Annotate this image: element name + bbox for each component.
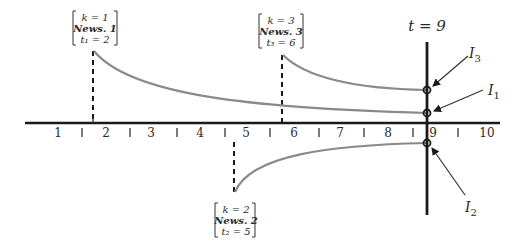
impact-curve-k3 [283,55,427,90]
axis-separators [82,128,458,137]
news-impact-diagram: 1 2 3 4 5 6 7 8 9 10 t = 9 I3 I1 I2 k = … [0,0,521,249]
tick-label-9: 9 [429,126,437,140]
tick-label-1: 1 [54,126,62,140]
arrow-i3 [433,56,468,86]
tick-label-10: 10 [479,126,494,140]
news-k2-name: News. 2 [213,215,258,226]
news-k1-t: t₁ = 2 [80,34,109,45]
impact-label-i2: I2 [464,199,477,218]
news-k3-k: k = 3 [267,15,294,26]
impact-label-i1: I1 [487,82,500,101]
news-k3-name: News. 3 [258,26,303,37]
impact-label-i3: I3 [468,45,481,64]
news-k1-name: News. 1 [72,23,117,34]
tick-label-6: 6 [290,126,298,140]
tick-label-4: 4 [196,126,204,140]
news-box-k2: k = 2 News. 2 t₂ = 5 [213,203,258,237]
news-k3-t: t₃ = 6 [266,37,296,48]
arrow-i2 [432,148,465,195]
arrow-i1 [434,90,483,111]
tick-label-7: 7 [336,126,344,140]
news-box-k3: k = 3 News. 3 t₃ = 6 [258,14,303,48]
news-k2-k: k = 2 [222,204,249,215]
impact-curve-k1 [94,51,427,113]
news-k1-k: k = 1 [81,12,108,23]
axis-tick-labels: 1 2 3 4 5 6 7 8 9 10 [54,126,494,140]
impact-curve-k2 [235,143,427,192]
news-box-k1: k = 1 News. 1 t₁ = 2 [72,11,117,45]
tick-label-3: 3 [147,126,155,140]
current-time-label: t = 9 [408,17,446,35]
tick-label-5: 5 [242,126,250,140]
tick-label-2: 2 [102,126,110,140]
news-k2-t: t₂ = 5 [221,226,250,237]
tick-label-8: 8 [384,126,392,140]
